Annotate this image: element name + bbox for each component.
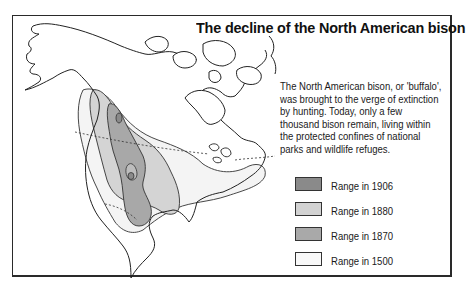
greenland-coast — [269, 36, 276, 74]
legend-swatch-1500 — [295, 252, 322, 266]
description-text: The North American bison, or 'buffalo', … — [280, 80, 442, 156]
arctic-islands — [145, 36, 261, 84]
range-1906-patch — [128, 173, 134, 180]
range-1906-patch — [116, 113, 122, 123]
legend-label-1906: Range in 1906 — [331, 180, 393, 192]
great-lakes — [209, 144, 231, 163]
legend-label-1870: Range in 1870 — [331, 230, 393, 242]
legend-swatch-1880 — [295, 202, 322, 216]
map-figure: The decline of the North American bison … — [12, 15, 452, 277]
legend-swatch-1870 — [295, 227, 322, 241]
legend-swatch-1906 — [295, 177, 322, 191]
hudson-bay — [185, 90, 225, 124]
map-title: The decline of the North American bison — [196, 19, 465, 37]
legend-label-1500: Range in 1500 — [331, 255, 393, 267]
legend-label-1880: Range in 1880 — [331, 205, 393, 217]
